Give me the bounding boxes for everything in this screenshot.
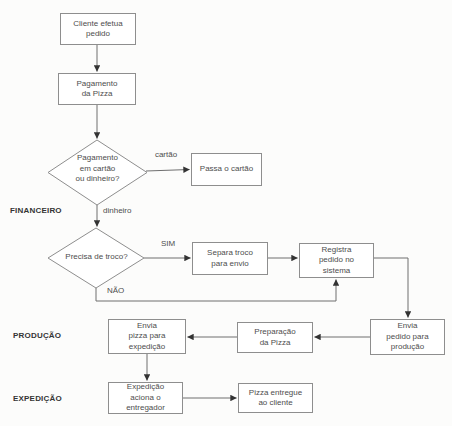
node-preparacao-da-pizza: Preparação da Pizza [237,322,313,353]
edge-label-nao: NÃO [107,286,124,295]
node-pagamento-da-pizza: Pagamento da Pizza [58,73,136,105]
edge-cartao-to-passa-cartao [146,170,190,172]
flowchart-canvas: FINANCEIRO PRODUÇÃO EXPEDIÇÃO Cliente ef… [0,0,452,426]
edge-label-sim: SIM [161,239,175,248]
node-separa-troco: Separa troco para envio [192,242,268,275]
node-cliente-efetua-pedido: Cliente efetua pedido [60,13,136,45]
node-pizza-entregue-cliente: Pizza entregue ao cliente [238,383,313,413]
flowchart-connectors [0,0,452,426]
edge-label-dinheiro: dinheiro [103,206,131,215]
edge-label-cartao: cartão [149,150,183,159]
decision-troco-label: Precisa de troco? [48,252,145,263]
lane-label-expedicao: EXPEDIÇÃO [13,394,62,403]
node-expedicao-aciona-entregador: Expedição aciona o entregador [108,382,183,414]
node-registra-pedido: Registra pedido no sistema [299,243,374,278]
edge-nao-to-registra [96,280,336,302]
edge-registra-to-envia-pedido [374,258,408,318]
lane-label-financeiro: FINANCEIRO [10,206,62,215]
node-envia-pizza-expedicao: Envia pizza para expedição [108,319,186,354]
node-passa-o-cartao: Passa o cartão [191,153,262,186]
node-envia-pedido-producao: Envia pedido para produção [370,319,445,355]
lane-label-producao: PRODUÇÃO [13,331,61,340]
decision-pagamento-label: Pagamento em cartão ou dinheiro? [48,153,147,185]
